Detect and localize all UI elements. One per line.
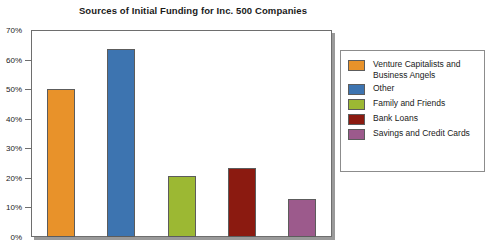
legend-item-label: Family and Friends: [373, 98, 445, 109]
legend-item-label: Savings and Credit Cards: [373, 128, 470, 139]
y-axis-tick-label: 20%: [6, 173, 22, 182]
legend-item: Other: [348, 83, 480, 95]
y-axis-tick-label: 40%: [6, 114, 22, 123]
legend-item: Venture Capitalists and Business Angels: [348, 59, 480, 80]
y-axis-tick-label: 10%: [6, 203, 22, 212]
bar-chart-figure: Sources of Initial Funding for Inc. 500 …: [0, 0, 491, 249]
y-axis-tick-label: 60%: [6, 55, 22, 64]
y-axis: 70%60%50%40%30%20%10%0%: [0, 0, 31, 249]
legend-color-swatch: [348, 114, 365, 125]
legend-color-swatch: [348, 84, 365, 95]
bar: [228, 168, 256, 237]
bar: [168, 176, 196, 237]
bar: [107, 49, 135, 237]
chart-title: Sources of Initial Funding for Inc. 500 …: [58, 5, 328, 16]
legend-item: Savings and Credit Cards: [348, 128, 480, 140]
y-axis-tick-label: 30%: [6, 144, 22, 153]
legend-list: Venture Capitalists and Business AngelsO…: [348, 59, 480, 143]
y-axis-tick-label: 0%: [10, 233, 22, 242]
bar: [47, 89, 75, 237]
legend-item-label: Other: [373, 83, 394, 94]
y-axis-tick-label: 50%: [6, 85, 22, 94]
bar: [288, 199, 316, 237]
legend-color-swatch: [348, 99, 365, 110]
legend-item-label: Bank Loans: [373, 113, 418, 124]
legend-color-swatch: [348, 129, 365, 140]
legend-color-swatch: [348, 60, 365, 71]
y-axis-tick-label: 70%: [6, 26, 22, 35]
legend: Venture Capitalists and Business AngelsO…: [340, 50, 485, 172]
legend-item: Family and Friends: [348, 98, 480, 110]
legend-item-label: Venture Capitalists and Business Angels: [373, 59, 480, 80]
legend-item: Bank Loans: [348, 113, 480, 125]
bars-group: [31, 30, 332, 237]
